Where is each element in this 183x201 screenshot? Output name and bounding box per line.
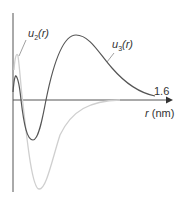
x-tick-label-1-6: 1.6 bbox=[154, 85, 169, 97]
chart: u2(r) u3(r) 1.6 r (nm) bbox=[0, 0, 183, 201]
u3-label: u3(r) bbox=[112, 38, 133, 52]
series-u2-curve bbox=[14, 54, 120, 189]
u2-leader-line bbox=[19, 40, 26, 56]
x-axis-label: r (nm) bbox=[145, 107, 174, 119]
series-u3-curve bbox=[13, 35, 155, 140]
x-axis-arrow-icon bbox=[166, 97, 173, 104]
u2-label: u2(r) bbox=[28, 27, 49, 41]
u3-leader-line bbox=[107, 53, 114, 62]
